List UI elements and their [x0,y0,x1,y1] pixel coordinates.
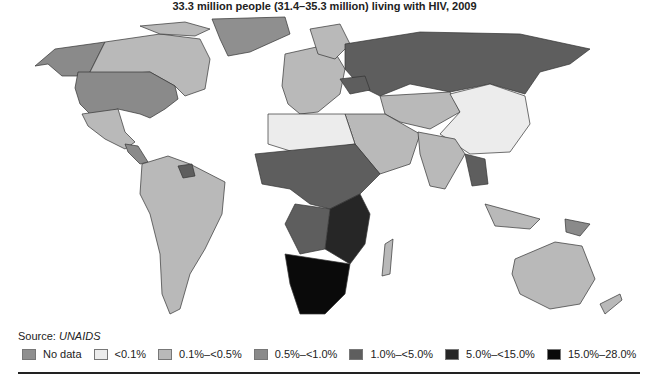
legend-label: 15.0%–28.0% [568,348,637,360]
region-central-africa [285,204,330,254]
region-new-zealand [600,294,622,314]
legend-item-no-data: No data [22,348,82,360]
legend-swatch [94,349,108,360]
region-indonesia [485,204,540,229]
region-thailand [465,154,488,186]
region-southern-africa [285,254,350,314]
region-madagascar [382,239,393,276]
legend-item-15-0-28-0: 15.0%–28.0% [547,348,637,360]
source-label: Source: [18,330,59,342]
region-south-america [140,156,225,314]
region-ukraine [340,76,370,94]
legend-swatch [445,349,459,360]
legend-item-lt-0-1: <0.1% [94,348,147,360]
map-title: 33.3 million people (31.4–35.3 million) … [0,0,649,13]
region-mexico [82,109,135,149]
legend-item-5-0-15-0: 5.0%–<15.0% [445,348,535,360]
source-note: Source: UNAIDS [18,330,101,342]
legend-swatch [22,349,36,360]
legend-label: 1.0%–<5.0% [370,348,433,360]
region-australia [512,242,595,309]
legend-swatch [254,349,268,360]
legend-label: 5.0%–<15.0% [466,348,535,360]
legend-item-0-1-0-5: 0.1%–<0.5% [158,348,242,360]
legend-swatch [158,349,172,360]
legend: No data <0.1% 0.1%–<0.5% 0.5%–<1.0% 1.0%… [22,348,648,360]
legend-item-0-5-1-0: 0.5%–<1.0% [254,348,338,360]
region-papua-new-guinea [565,219,590,236]
legend-item-1-0-5-0: 1.0%–<5.0% [349,348,433,360]
region-central-america [125,144,148,164]
legend-label: 0.1%–<0.5% [179,348,242,360]
world-map [0,14,649,324]
region-russia [345,32,590,96]
region-greenland [212,17,290,56]
bottom-rule [18,372,640,374]
region-usa [75,72,178,118]
legend-label: 0.5%–<1.0% [275,348,338,360]
source-name: UNAIDS [59,330,101,342]
region-arctic-islands [140,22,210,36]
world-map-svg [0,14,649,324]
legend-swatch [349,349,363,360]
legend-label: <0.1% [115,348,147,360]
legend-label: No data [43,348,82,360]
legend-swatch [547,349,561,360]
